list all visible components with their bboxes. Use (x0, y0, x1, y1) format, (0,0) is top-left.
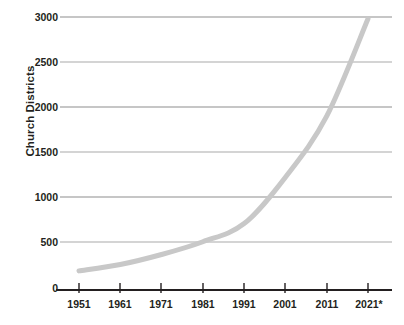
x-tick-label-2021: 2021* (339, 298, 399, 310)
gridlines (60, 17, 392, 242)
plot-area (0, 0, 404, 325)
data-series-church-districts (79, 19, 368, 271)
x-axis-ticks (79, 283, 368, 293)
line-chart: Church Districts 3000 2500 2000 1500 100… (0, 0, 404, 325)
